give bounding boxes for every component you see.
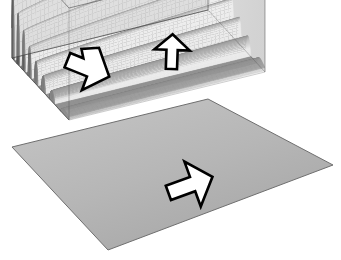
surface-plot-svg bbox=[0, 0, 341, 260]
figure-container bbox=[0, 0, 341, 260]
ground-plane-quad bbox=[12, 99, 333, 250]
